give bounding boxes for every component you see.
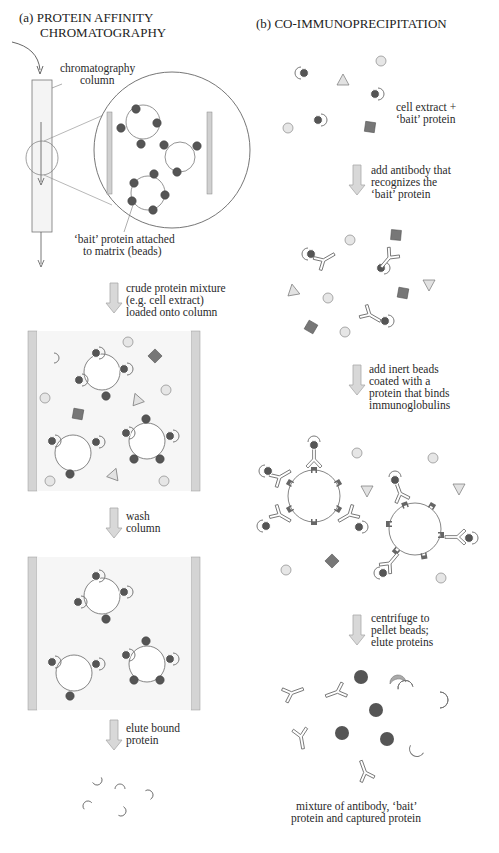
step-b3-label-line2: pellet beads; xyxy=(371,624,429,637)
panel-a xyxy=(12,42,250,818)
column-loaded xyxy=(28,331,200,491)
step-b1-label-line3: ‘bait’ protein xyxy=(371,188,431,201)
column-label-line2: column xyxy=(80,74,115,87)
step-b2-label-line4: immunoglobulins xyxy=(369,399,450,412)
step-b3-label: centrifuge to xyxy=(371,612,429,625)
step-b3-label-line3: elute proteins xyxy=(371,636,433,649)
panel-a-title-line2: CHROMATOGRAPHY xyxy=(40,25,166,40)
step-arrow xyxy=(106,720,122,750)
step-arrow xyxy=(349,165,365,195)
panel-a-title: (a) PROTEIN AFFINITY xyxy=(19,10,153,25)
step-b2-label: add inert beads xyxy=(369,363,439,376)
magnified-view xyxy=(94,72,250,232)
step-b1-label-line2: recognizes the xyxy=(371,176,437,189)
step-arrow xyxy=(106,283,122,313)
input-arrow xyxy=(12,42,40,70)
bead-complex xyxy=(257,436,478,583)
step-b1-label: add antibody that xyxy=(371,164,451,177)
step-arrow xyxy=(106,508,122,538)
step-a2-label-line2: column xyxy=(126,522,161,535)
panel-b-title: (b) CO-IMMUNOPRECIPITATION xyxy=(256,16,447,31)
step-b2-label-line2: coated with a xyxy=(369,375,430,388)
step-a1-label-line2: (e.g. cell extract) xyxy=(126,294,204,307)
column-label: chromatography xyxy=(60,62,135,75)
start-label: cell extract + xyxy=(396,101,456,114)
step-a3-label-line2: protein xyxy=(126,734,159,747)
eluted-proteins xyxy=(81,778,155,818)
diagram-canvas xyxy=(0,0,499,853)
antibody-bound-extract xyxy=(286,230,435,337)
bait-label-line2: to matrix (beads) xyxy=(83,245,162,258)
eluted-mixture xyxy=(281,670,448,783)
step-a1-label-line3: loaded onto column xyxy=(126,306,217,319)
step-a3-label: elute bound xyxy=(126,722,180,735)
chromatography-column xyxy=(32,80,52,232)
step-a1-label: crude protein mixture xyxy=(126,282,226,295)
result-label: mixture of antibody, ‘bait’ xyxy=(296,800,417,813)
step-arrow xyxy=(349,615,365,645)
step-b2-label-line3: protein that binds xyxy=(369,387,450,400)
step-arrow xyxy=(349,365,365,395)
cell-extract xyxy=(283,56,386,133)
column-washed xyxy=(28,557,200,710)
bait-label: ‘bait’ protein attached xyxy=(74,233,175,246)
result-label-line2: protein and captured protein xyxy=(291,812,421,825)
start-label-line2: ‘bait’ protein xyxy=(396,113,456,126)
step-a2-label: wash xyxy=(126,510,150,523)
